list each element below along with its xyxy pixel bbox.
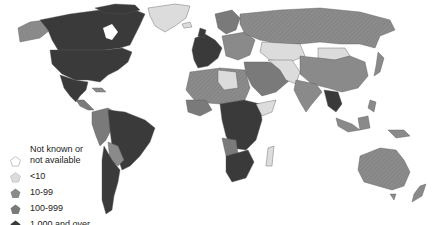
legend-label: Not known or [30, 144, 118, 155]
legend-item-1000-plus: 1,000 and over [8, 219, 118, 225]
pentagon-icon [10, 204, 21, 215]
pentagon-icon [10, 188, 21, 199]
legend-label: 100-999 [30, 203, 63, 213]
region-tasmania [390, 194, 396, 200]
region-japan [374, 52, 384, 76]
legend-item-100-999: 100-999 [8, 203, 118, 214]
region-iceland [182, 22, 192, 28]
region-indonesia [336, 118, 360, 132]
legend-label: 1,000 and over [30, 219, 90, 225]
region-philippines [368, 100, 376, 112]
legend-label: not available [30, 155, 118, 166]
region-western-europe [192, 34, 222, 68]
region-borneo [358, 116, 370, 130]
region-southeast-asia [324, 90, 342, 112]
region-southern-africa [226, 150, 254, 182]
pentagon-icon [10, 172, 21, 183]
pentagon-icon [10, 220, 21, 225]
region-central-america [76, 100, 94, 110]
legend-label: 10-99 [30, 187, 53, 197]
region-new-zealand [412, 184, 426, 202]
legend-item-lt10: <10 [8, 171, 118, 182]
region-scandinavia [215, 10, 240, 34]
region-canada [40, 8, 145, 50]
map-legend: Not known or not available <10 10-99 100… [8, 144, 118, 225]
region-new-guinea [388, 130, 410, 138]
region-caribbean [92, 88, 106, 92]
region-central-asia [260, 42, 305, 62]
legend-item-10-99: 10-99 [8, 187, 118, 198]
legend-item-not-known: Not known or not available [8, 144, 118, 166]
region-madagascar [266, 146, 274, 166]
pentagon-icon [10, 156, 21, 167]
legend-label: <10 [30, 171, 45, 181]
region-australia [358, 148, 410, 190]
